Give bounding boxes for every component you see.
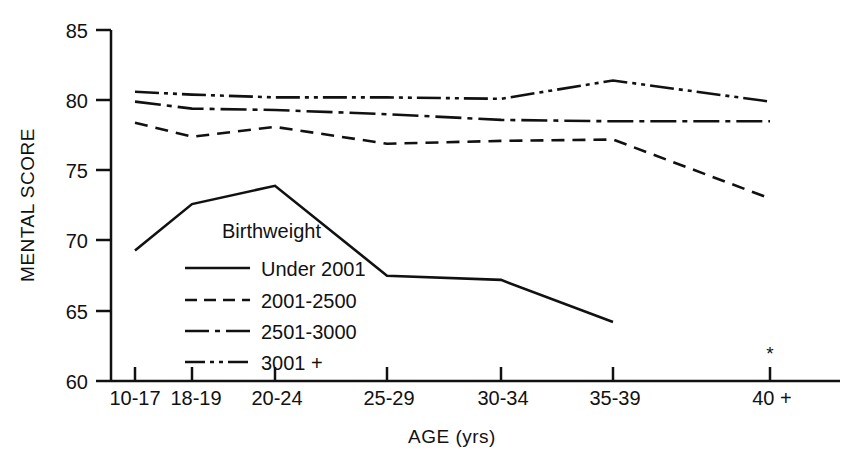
y-tick-label-65: 65 xyxy=(66,301,88,323)
y-tick-label-80: 80 xyxy=(66,90,88,112)
x-tick-label-20-24: 20-24 xyxy=(251,387,302,409)
y-tick-label-70: 70 xyxy=(66,230,88,252)
y-tick-label-60: 60 xyxy=(66,371,88,393)
legend-label-2001-2500: 2001-2500 xyxy=(261,290,357,312)
legend-label-3001-plus: 3001 + xyxy=(261,352,323,374)
x-tick-label-10-17: 10-17 xyxy=(109,387,160,409)
x-axis-title: AGE (yrs) xyxy=(408,426,496,447)
series-line-under-2001 xyxy=(135,186,613,322)
asterisk-annotation: * xyxy=(766,343,774,364)
y-axis-ticks xyxy=(96,30,111,381)
legend: Birthweight Under 2001 2001-2500 2501-30… xyxy=(185,220,366,374)
series-line-3001-plus xyxy=(135,81,770,102)
x-axis-ticks xyxy=(135,367,770,381)
legend-label-under-2001: Under 2001 xyxy=(261,258,366,280)
y-axis-title: MENTAL SCORE xyxy=(17,128,38,282)
series-lines xyxy=(135,81,770,323)
legend-label-2501-3000: 2501-3000 xyxy=(261,321,357,343)
y-tick-label-75: 75 xyxy=(66,160,88,182)
x-tick-label-35-39: 35-39 xyxy=(589,387,640,409)
x-tick-label-25-29: 25-29 xyxy=(363,387,414,409)
chart-root: 85 80 75 70 65 60 MENTAL SCORE 10-17 18-… xyxy=(0,0,848,468)
x-axis-tick-labels: 10-17 18-19 20-24 25-29 30-34 35-39 40 + xyxy=(109,387,791,409)
axis-lines xyxy=(111,30,840,381)
x-tick-label-30-34: 30-34 xyxy=(477,387,528,409)
series-line-2001-2500 xyxy=(135,123,770,199)
series-line-2501-3000 xyxy=(135,102,770,122)
legend-title: Birthweight xyxy=(222,220,321,242)
x-tick-label-18-19: 18-19 xyxy=(170,387,221,409)
y-tick-label-85: 85 xyxy=(66,20,88,42)
y-axis-tick-labels: 85 80 75 70 65 60 xyxy=(66,20,88,393)
line-chart-figure: 85 80 75 70 65 60 MENTAL SCORE 10-17 18-… xyxy=(0,0,848,468)
x-tick-label-40-plus: 40 + xyxy=(752,387,791,409)
